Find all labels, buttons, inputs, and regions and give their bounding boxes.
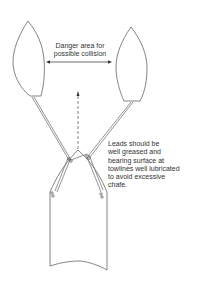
starboard-tug — [116, 27, 147, 101]
port-tug — [13, 21, 44, 96]
leads-note-line-6: chafe. — [108, 181, 180, 189]
leads-note-line-4: towlines well lubricated — [108, 165, 180, 173]
leads-note-line-2: well greased and — [108, 148, 180, 156]
towed-vessel — [50, 150, 107, 270]
leads-note-line-3: bearing surface at — [108, 157, 180, 165]
leads-note-line-1: Leads should be — [108, 140, 180, 148]
danger-area-line-1: Danger area for — [46, 42, 114, 50]
leads-note-line-5: to avoid excessive — [108, 173, 180, 181]
danger-area-arrow — [46, 60, 112, 63]
danger-area-label: Danger area for possible collision — [46, 42, 114, 59]
leads-note-label: Leads should be well greased and bearing… — [108, 140, 180, 190]
danger-area-line-2: possible collision — [46, 50, 114, 58]
